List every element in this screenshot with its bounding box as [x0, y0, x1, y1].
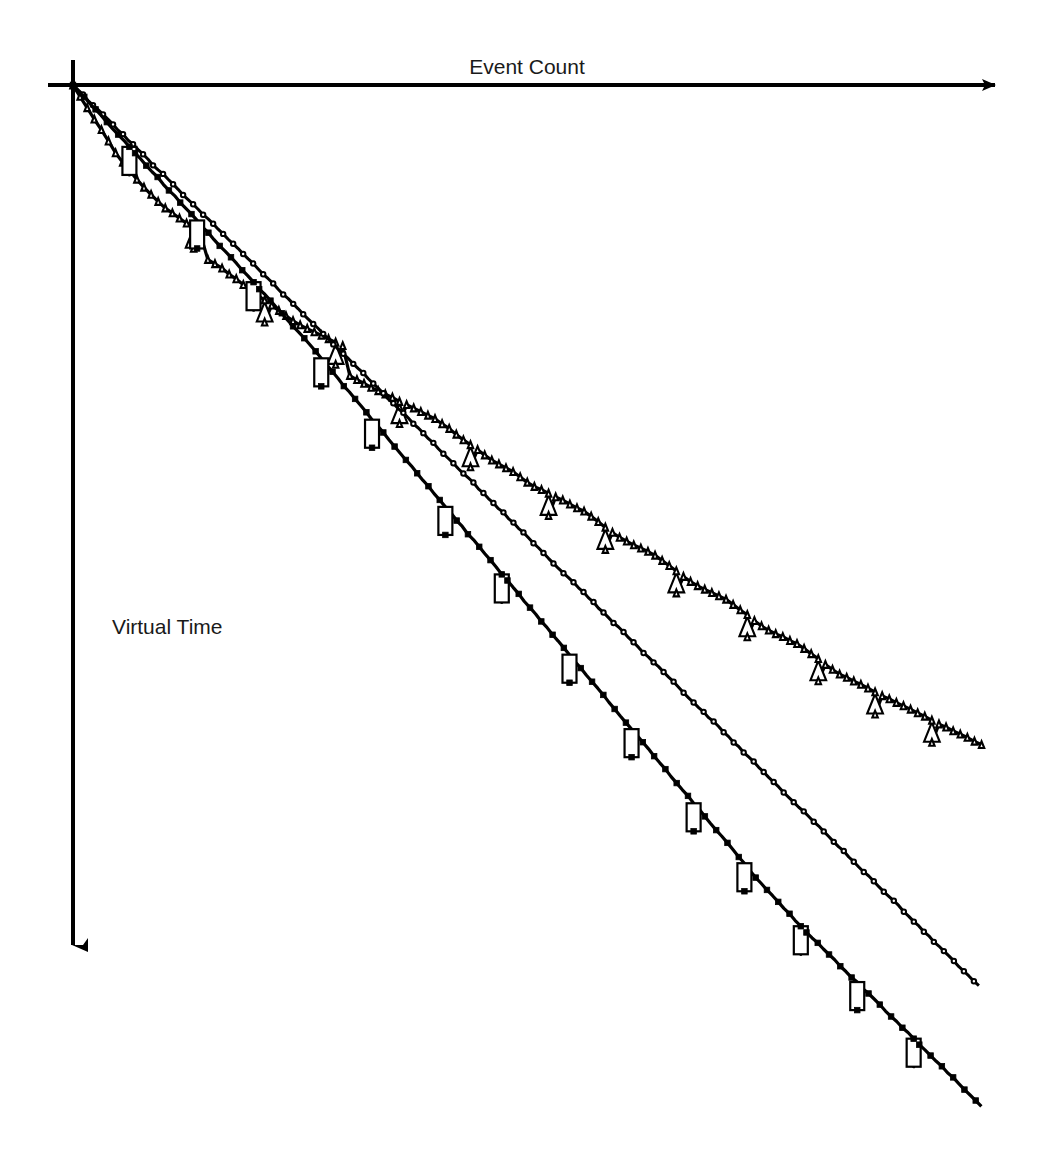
- rollback-drop: [737, 863, 751, 891]
- rollback-drop: [314, 358, 328, 386]
- rollback-drop: [190, 220, 204, 248]
- chart-figure: Event Count Virtual Time: [0, 0, 1044, 1163]
- x-axis-label: Event Count: [469, 55, 585, 78]
- rollback-drop: [625, 729, 639, 757]
- rollback-drop: [562, 655, 576, 683]
- rollback-drop: [850, 982, 864, 1010]
- y-axis-label: Virtual Time: [112, 615, 223, 638]
- rollback-drop: [438, 507, 452, 535]
- chart-canvas: Event Count Virtual Time: [0, 0, 1044, 1163]
- rollback-drop: [687, 803, 701, 831]
- rollback-drop: [365, 420, 379, 448]
